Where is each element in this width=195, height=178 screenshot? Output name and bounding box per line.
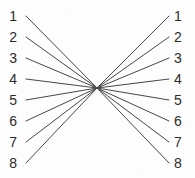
node-label-right-2: 2 [174, 30, 182, 44]
crossbar-diagram: 12345678 12345678 [0, 0, 195, 178]
node-label-right-7: 7 [174, 135, 182, 149]
edge-right-1 [97, 16, 169, 88]
node-label-left-7: 7 [0, 135, 17, 149]
edge-left-5 [26, 88, 97, 100]
node-label-left-6: 6 [0, 114, 17, 128]
edge-left-1 [26, 16, 97, 88]
edge-right-8 [97, 88, 169, 163]
edge-left-7 [26, 88, 97, 142]
edge-canvas [0, 0, 195, 178]
node-label-right-6: 6 [174, 114, 182, 128]
edge-left-8 [26, 88, 97, 163]
edge-right-5 [97, 88, 169, 100]
node-label-left-5: 5 [0, 93, 17, 107]
node-label-right-8: 8 [174, 156, 182, 170]
left-edge-group [26, 16, 97, 163]
edge-right-7 [97, 88, 169, 142]
edge-left-6 [26, 88, 97, 121]
node-label-left-4: 4 [0, 72, 17, 86]
node-label-left-2: 2 [0, 30, 17, 44]
node-label-left-1: 1 [0, 9, 17, 23]
node-label-left-3: 3 [0, 51, 17, 65]
node-label-right-1: 1 [174, 9, 182, 23]
node-label-right-5: 5 [174, 93, 182, 107]
edge-right-6 [97, 88, 169, 121]
node-label-right-3: 3 [174, 51, 182, 65]
node-label-right-4: 4 [174, 72, 182, 86]
node-label-left-8: 8 [0, 156, 17, 170]
right-edge-group [97, 16, 169, 163]
